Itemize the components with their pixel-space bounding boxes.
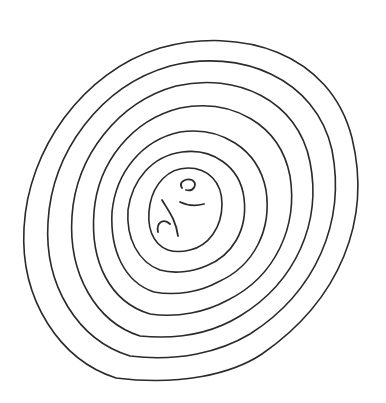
center-squiggle-top <box>181 179 195 190</box>
center-squiggle-middle <box>162 200 178 236</box>
ring-6 <box>128 151 245 272</box>
ring-4 <box>93 106 291 315</box>
center-squiggle-right <box>180 202 204 205</box>
sketch-canvas: Hand-drawn sketch of concentric wavy rin… <box>0 0 386 403</box>
concentric-rings-drawing <box>0 0 386 403</box>
ring-3 <box>72 82 313 337</box>
center-squiggle-bottom <box>158 221 170 232</box>
ring-1 <box>24 41 358 381</box>
